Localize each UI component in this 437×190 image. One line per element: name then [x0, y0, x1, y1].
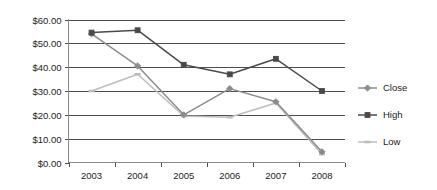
gridlines: [69, 21, 346, 140]
legend-item-low[interactable]: Low: [358, 136, 401, 147]
axis-ticks: [65, 21, 346, 167]
chart-legend: CloseHighLow: [358, 82, 407, 147]
series-line: [92, 30, 322, 91]
legend-item-label: Close: [383, 82, 407, 93]
series-low: [89, 74, 325, 154]
y-axis-tick-label: $10.00: [32, 134, 61, 145]
x-axis-tick-label: 2004: [127, 170, 148, 181]
y-axis-tick-labels: $0.00$10.00$20.00$30.00$40.00$50.00$60.0…: [32, 15, 61, 169]
x-axis-tick-label: 2008: [311, 170, 332, 181]
data-point-marker: [181, 62, 186, 67]
data-point-marker: [273, 56, 278, 61]
axis-lines: [68, 19, 345, 163]
legend-item-label: Low: [383, 136, 401, 147]
x-axis-tick-labels: 200320042005200620072008: [81, 170, 333, 181]
y-axis-tick-label: $60.00: [32, 15, 61, 26]
data-point-marker: [89, 30, 94, 35]
y-axis-tick-label: $40.00: [32, 62, 61, 73]
series-close: [88, 31, 325, 155]
x-axis-tick-label: 2007: [265, 170, 286, 181]
y-axis-tick-label: $20.00: [32, 110, 61, 121]
legend-item-high[interactable]: High: [358, 109, 403, 120]
data-point-marker: [365, 113, 370, 118]
series-line: [92, 34, 322, 152]
data-point-marker: [364, 85, 370, 91]
x-axis-tick-label: 2005: [173, 170, 194, 181]
x-axis-tick-label: 2006: [219, 170, 240, 181]
y-axis-tick-label: $50.00: [32, 38, 61, 49]
data-point-marker: [135, 28, 140, 33]
x-axis-tick-label: 2003: [81, 170, 102, 181]
data-point-marker: [227, 72, 232, 77]
legend-item-label: High: [383, 109, 403, 120]
series-high: [89, 28, 324, 94]
chart-canvas: $0.00$10.00$20.00$30.00$40.00$50.00$60.0…: [0, 0, 437, 190]
data-point-marker: [320, 89, 325, 94]
line-chart: $0.00$10.00$20.00$30.00$40.00$50.00$60.0…: [0, 0, 437, 190]
y-axis-tick-label: $30.00: [32, 86, 61, 97]
legend-item-close[interactable]: Close: [358, 82, 407, 93]
data-point-marker: [227, 86, 233, 92]
y-axis-tick-label: $0.00: [38, 158, 62, 169]
